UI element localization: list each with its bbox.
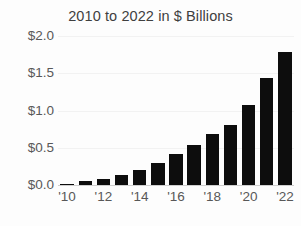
bar — [206, 134, 219, 185]
gridline — [58, 111, 294, 112]
y-axis-tick-label: $2.0 — [10, 28, 54, 43]
x-axis-labels: '10'12'14'16'18'20'22 — [58, 189, 294, 213]
gridline — [58, 36, 294, 37]
bar — [115, 175, 128, 185]
gridline — [58, 73, 294, 74]
x-axis-tick-label: '18 — [204, 189, 222, 204]
x-axis-tick-label: '22 — [276, 189, 294, 204]
y-axis-labels: $0.0$0.5$1.0$1.5$2.0 — [4, 0, 54, 226]
x-axis-tick-label: '20 — [240, 189, 258, 204]
bar — [187, 145, 200, 185]
bar — [151, 163, 164, 185]
x-axis-line — [58, 185, 294, 186]
bar-chart: 2010 to 2022 in $ Billions $0.0$0.5$1.0$… — [0, 0, 301, 226]
bar — [224, 125, 237, 185]
y-axis-tick-label: $0.0 — [10, 177, 54, 192]
bar — [278, 52, 291, 185]
x-axis-tick-label: '16 — [167, 189, 185, 204]
bar — [242, 105, 255, 185]
plot-area — [58, 36, 294, 185]
y-axis-tick-label: $1.5 — [10, 65, 54, 80]
gridline — [58, 148, 294, 149]
bar — [260, 78, 273, 185]
y-axis-tick-label: $1.0 — [10, 103, 54, 118]
x-axis-tick-label: '10 — [58, 189, 76, 204]
x-axis-tick-label: '14 — [131, 189, 149, 204]
x-axis-tick-label: '12 — [95, 189, 113, 204]
bar — [133, 170, 146, 185]
y-axis-tick-label: $0.5 — [10, 140, 54, 155]
bar — [169, 154, 182, 185]
